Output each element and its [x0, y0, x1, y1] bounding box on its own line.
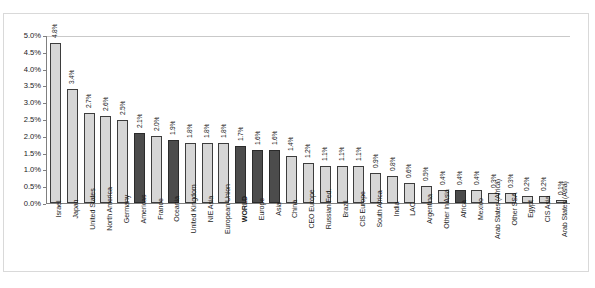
- x-axis-label-slot: Japan: [64, 207, 81, 288]
- x-axis-label-slot: China: [283, 207, 300, 288]
- bar[interactable]: [151, 136, 162, 203]
- bar[interactable]: [252, 150, 263, 203]
- bar-slot[interactable]: 2.0%: [148, 36, 165, 203]
- bar-value-label: 4.8%: [52, 24, 58, 38]
- bar-value-label: 1.1%: [356, 147, 362, 161]
- y-axis-tick-label: 1.0%: [0, 166, 41, 173]
- x-axis-label-slot: European Union: [216, 207, 233, 288]
- x-axis-label-slot: France: [148, 207, 165, 288]
- bar-slot[interactable]: 2.7%: [81, 36, 98, 203]
- bar-slot[interactable]: 0.4%: [435, 36, 452, 203]
- x-axis-label-slot: Oceania: [165, 207, 182, 288]
- y-axis-tick-label: 1.5%: [0, 150, 41, 157]
- bar-slot[interactable]: 3.4%: [64, 36, 81, 203]
- bar-slot[interactable]: 1.7%: [232, 36, 249, 203]
- bar-value-label: 1.7%: [238, 127, 244, 141]
- bar[interactable]: [337, 166, 348, 203]
- bar-value-label: 2.7%: [86, 94, 92, 108]
- bar-slot[interactable]: 1.6%: [266, 36, 283, 203]
- y-axis-tick-label: 0.5%: [0, 183, 41, 190]
- bar-slot[interactable]: 1.1%: [317, 36, 334, 203]
- bar-slot[interactable]: 4.8%: [47, 36, 64, 203]
- bar-slot[interactable]: 0.3%: [485, 36, 502, 203]
- x-axis-tick-label: Other SSA: [511, 192, 519, 225]
- x-axis-label-slot: Egypt: [519, 207, 536, 288]
- y-axis-tick-mark: [43, 204, 46, 205]
- bar-slot[interactable]: 1.8%: [216, 36, 233, 203]
- bar[interactable]: [269, 150, 280, 203]
- bar[interactable]: [168, 140, 179, 203]
- bar-slot[interactable]: 2.6%: [98, 36, 115, 203]
- x-axis-label-slot: Other SSA: [502, 207, 519, 288]
- x-axis-label-slot: Mexico: [468, 207, 485, 288]
- x-axis-label-slot: Argentina: [418, 207, 435, 288]
- bar-slot[interactable]: 0.2%: [519, 36, 536, 203]
- bar-series: 4.8%3.4%2.7%2.6%2.5%2.1%2.0%1.9%1.8%1.8%…: [47, 36, 570, 203]
- bar-value-label: 1.6%: [272, 130, 278, 144]
- bar-value-label: 1.1%: [322, 147, 328, 161]
- bar-slot[interactable]: 1.1%: [334, 36, 351, 203]
- x-axis-tick-label: Arab States (Asia): [561, 181, 569, 237]
- bar-value-label: 2.0%: [154, 117, 160, 131]
- bar-slot[interactable]: 1.1%: [350, 36, 367, 203]
- bar[interactable]: [387, 176, 398, 203]
- x-axis-tick-label: Americas: [140, 195, 148, 224]
- bar-value-label: 0.2%: [524, 177, 530, 191]
- bar-slot[interactable]: 2.5%: [114, 36, 131, 203]
- x-axis-labels: IsraelJapanUnited StatesNorth AmericaGer…: [47, 207, 570, 288]
- bar-slot[interactable]: 1.6%: [249, 36, 266, 203]
- bar[interactable]: [235, 146, 246, 203]
- bar-slot[interactable]: 0.6%: [401, 36, 418, 203]
- bar[interactable]: [117, 120, 128, 204]
- y-axis-tick-label: 3.0%: [0, 99, 41, 106]
- bar-slot[interactable]: 0.8%: [384, 36, 401, 203]
- x-axis-tick-label: Oceania: [173, 196, 181, 222]
- x-axis-tick-label: North America: [106, 187, 114, 231]
- bar-slot[interactable]: 2.1%: [131, 36, 148, 203]
- bar[interactable]: [202, 143, 213, 203]
- x-axis-label-slot: Germany: [114, 207, 131, 288]
- bar-slot[interactable]: 0.4%: [452, 36, 469, 203]
- x-axis-tick-label: WORLD: [241, 196, 249, 222]
- x-axis-label-slot: Russian Fed.: [317, 207, 334, 288]
- bar-value-label: 1.1%: [339, 147, 345, 161]
- bar-slot[interactable]: 0.9%: [367, 36, 384, 203]
- bar-value-label: 1.6%: [255, 130, 261, 144]
- plot-region: 5.0%4.5%4.0%3.5%3.0%2.5%2.0%1.5%1.0%0.5%…: [46, 36, 570, 204]
- bar-slot[interactable]: 1.2%: [300, 36, 317, 203]
- y-axis-tick-label: 5.0%: [0, 32, 41, 39]
- bar-value-label: 3.4%: [69, 70, 75, 84]
- y-axis-tick-mark: [43, 53, 46, 54]
- bar-value-label: 2.6%: [103, 97, 109, 111]
- bar-value-label: 0.9%: [373, 154, 379, 168]
- bar[interactable]: [134, 133, 145, 203]
- x-axis-tick-label: Asia: [275, 202, 283, 215]
- x-axis-label-slot: CIS Asia: [536, 207, 553, 288]
- bar[interactable]: [50, 43, 61, 203]
- bar-slot[interactable]: 1.4%: [283, 36, 300, 203]
- x-axis-tick-label: Egypt: [527, 200, 535, 218]
- bar-slot[interactable]: 1.9%: [165, 36, 182, 203]
- bar-slot[interactable]: 0.5%: [418, 36, 435, 203]
- x-axis-label-slot: United States: [81, 207, 98, 288]
- bar-slot[interactable]: 0.2%: [536, 36, 553, 203]
- bar-slot[interactable]: 1.8%: [182, 36, 199, 203]
- bar-slot[interactable]: 1.8%: [199, 36, 216, 203]
- bar-value-label: 1.8%: [187, 124, 193, 138]
- bar[interactable]: [286, 156, 297, 203]
- bar[interactable]: [67, 89, 78, 203]
- bar-slot[interactable]: 0.3%: [502, 36, 519, 203]
- chart-frame: 5.0%4.5%4.0%3.5%3.0%2.5%2.0%1.5%1.0%0.5%…: [3, 13, 589, 272]
- x-axis-tick-label: Argentina: [426, 194, 434, 223]
- x-axis-label-slot: CIS Europe: [350, 207, 367, 288]
- y-axis-tick-label: 4.0%: [0, 66, 41, 73]
- x-axis-tick-label: European Union: [224, 184, 232, 234]
- bar-slot[interactable]: 0.1%: [553, 36, 570, 203]
- bar-value-label: 0.6%: [406, 164, 412, 178]
- bar-slot[interactable]: 0.4%: [468, 36, 485, 203]
- bar-value-label: 0.4%: [457, 171, 463, 185]
- x-axis-tick-label: Other in Asia: [443, 189, 451, 228]
- x-axis-tick-label: France: [157, 198, 165, 219]
- x-axis-label-slot: Africa: [452, 207, 469, 288]
- bar[interactable]: [404, 183, 415, 203]
